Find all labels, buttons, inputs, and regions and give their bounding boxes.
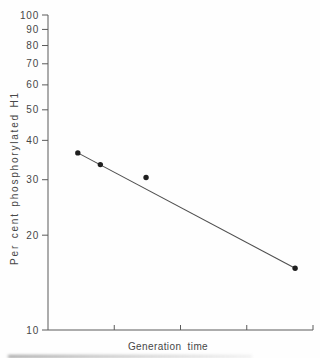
y-tick-label: 70 (26, 58, 39, 69)
data-point (75, 150, 80, 155)
y-tick-label: 20 (26, 230, 39, 241)
y-tick-label: 50 (26, 104, 39, 115)
y-tick-label: 90 (26, 24, 39, 35)
phosphorylation-vs-generation-time-chart: 100908070605040302010 (0, 0, 320, 358)
data-point (292, 266, 297, 271)
y-tick-label: 30 (26, 174, 39, 185)
y-tick-label: 100 (20, 10, 39, 21)
data-point (98, 162, 103, 167)
x-axis-label: Generation time (128, 341, 208, 352)
figure-scan: 100908070605040302010 Per cent phosphory… (0, 0, 320, 358)
y-tick-label: 10 (26, 325, 39, 336)
y-axis-label: Per cent phosphorylated H1 (9, 91, 20, 265)
y-tick-label: 40 (26, 135, 39, 146)
y-tick-label: 80 (26, 40, 39, 51)
axes-frame (48, 15, 313, 330)
trend-line (78, 153, 295, 268)
data-point (143, 175, 148, 180)
y-tick-label: 60 (26, 79, 39, 90)
